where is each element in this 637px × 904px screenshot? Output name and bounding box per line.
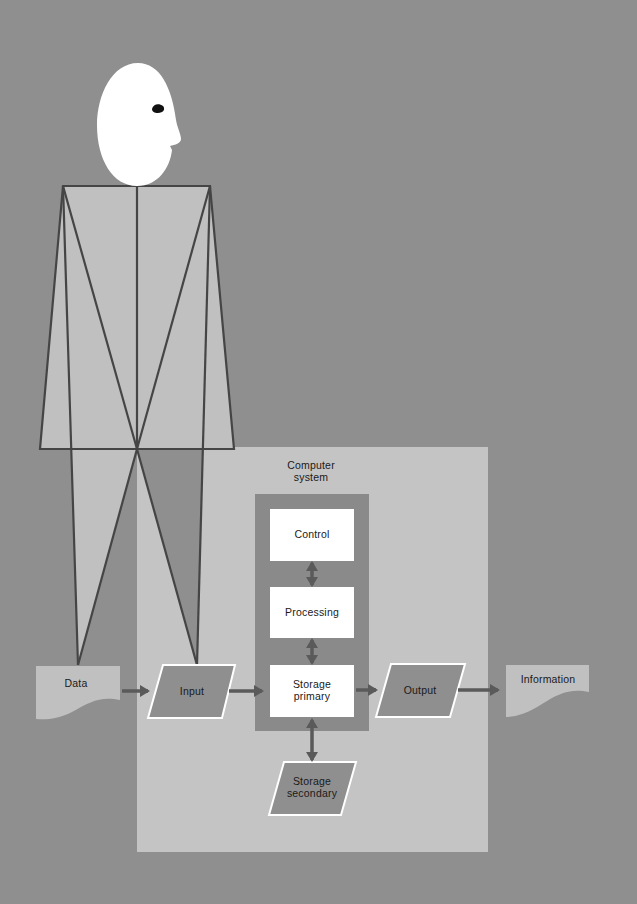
illustration: Computer system Data Input Control Proce… [0, 0, 637, 904]
processing-box [270, 587, 354, 638]
data-document [36, 666, 120, 719]
head [97, 63, 181, 186]
storage-secondary-shape [269, 762, 356, 815]
storage-primary-box [270, 665, 354, 717]
control-box [270, 509, 354, 561]
diagram-canvas [0, 0, 637, 904]
information-document [506, 665, 589, 717]
output-shape [376, 664, 465, 717]
input-shape [148, 665, 235, 718]
